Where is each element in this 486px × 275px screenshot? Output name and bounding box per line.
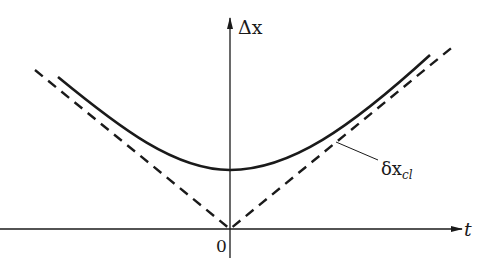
origin-label: 0 <box>216 236 227 256</box>
y-axis-label: Δx <box>238 16 262 38</box>
classical-dashed-line <box>35 45 455 229</box>
classical-label-subscript: cl <box>402 168 413 182</box>
label-leader-line <box>336 142 378 160</box>
diagram-canvas <box>0 0 486 275</box>
classical-label-main: δx <box>381 158 402 179</box>
uncertainty-curve <box>58 55 430 170</box>
classical-label: δxcl <box>381 158 413 179</box>
x-axis-label: t <box>464 218 472 240</box>
y-axis-label-text: Δx <box>238 16 262 38</box>
